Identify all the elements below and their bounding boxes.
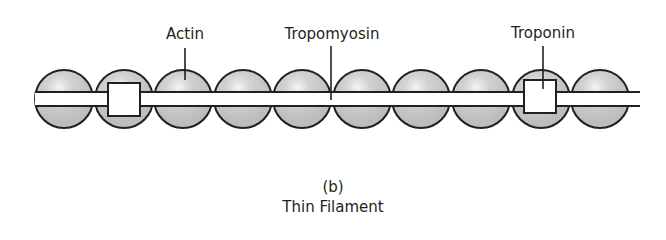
actin-label: Actin bbox=[166, 25, 204, 43]
troponin-box-right bbox=[524, 80, 556, 113]
troponin-label: Troponin bbox=[511, 24, 575, 42]
troponin-box-left bbox=[108, 83, 140, 116]
panel-label: (b) bbox=[322, 178, 343, 196]
figure-title: Thin Filament bbox=[282, 198, 383, 216]
tropomyosin-label: Tropomyosin bbox=[285, 25, 380, 43]
